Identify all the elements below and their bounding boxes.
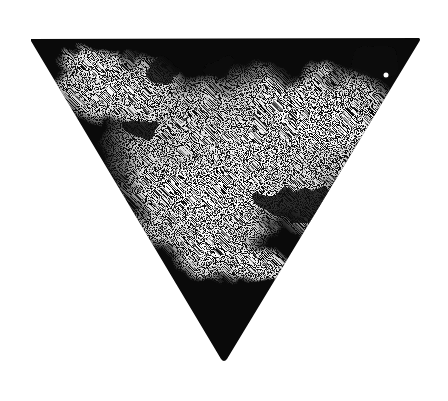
inverted-triangle-icon [0, 0, 448, 401]
triangle-fill [0, 0, 448, 401]
artwork-canvas [0, 0, 448, 401]
